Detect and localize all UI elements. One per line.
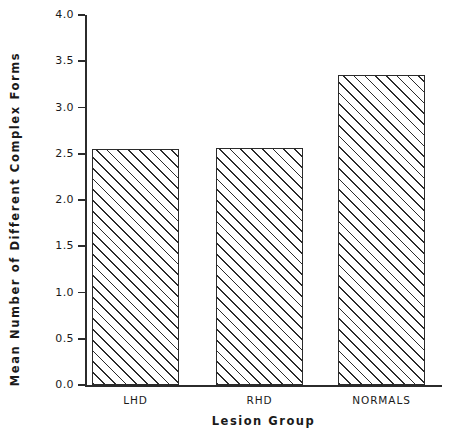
x-axis-title: Lesion Group bbox=[85, 414, 442, 428]
bar-normals bbox=[338, 75, 425, 385]
bar-rhd bbox=[216, 148, 303, 385]
y-tick-label: 4.0 bbox=[28, 8, 74, 22]
y-tick-label: 1.5 bbox=[28, 239, 74, 253]
y-tick-mark bbox=[78, 338, 85, 340]
y-tick-label-text: 1.5 bbox=[28, 239, 74, 252]
y-tick-label-text: 2.0 bbox=[28, 193, 74, 206]
y-tick-label-text: 2.5 bbox=[28, 147, 74, 160]
y-tick-label: 2.5 bbox=[28, 147, 74, 161]
y-tick-mark bbox=[78, 153, 85, 155]
y-tick-mark bbox=[78, 384, 85, 386]
y-tick-label: 0.5 bbox=[28, 332, 74, 346]
x-axis-line bbox=[85, 385, 442, 387]
y-tick-mark bbox=[78, 199, 85, 201]
y-axis-title: Mean Number of Different Complex Forms bbox=[2, 0, 28, 438]
y-axis-line bbox=[85, 15, 87, 386]
y-tick-mark bbox=[78, 245, 85, 247]
y-tick-label: 3.5 bbox=[28, 54, 74, 68]
y-tick-mark bbox=[78, 107, 85, 109]
y-tick-label-text: 1.0 bbox=[28, 286, 74, 299]
y-tick-mark bbox=[78, 292, 85, 294]
bar-chart-figure: Mean Number of Different Complex Forms 0… bbox=[0, 0, 452, 438]
y-tick-label-text: 4.0 bbox=[28, 8, 74, 21]
x-tick-label-rhd: RHD bbox=[216, 392, 303, 408]
bar-lhd bbox=[92, 149, 179, 385]
y-tick-label: 0.0 bbox=[28, 378, 74, 392]
y-tick-label: 2.0 bbox=[28, 193, 74, 207]
x-tick-label-lhd: LHD bbox=[92, 392, 179, 408]
x-tick-label-normals: NORMALS bbox=[338, 392, 425, 408]
y-tick-mark bbox=[78, 60, 85, 62]
y-tick-mark bbox=[78, 14, 85, 16]
y-tick-label-text: 3.5 bbox=[28, 54, 74, 67]
y-tick-label: 3.0 bbox=[28, 101, 74, 115]
y-tick-label-text: 0.5 bbox=[28, 332, 74, 345]
y-tick-label-text: 3.0 bbox=[28, 101, 74, 114]
y-tick-label-text: 0.0 bbox=[28, 378, 74, 391]
y-tick-label: 1.0 bbox=[28, 286, 74, 300]
